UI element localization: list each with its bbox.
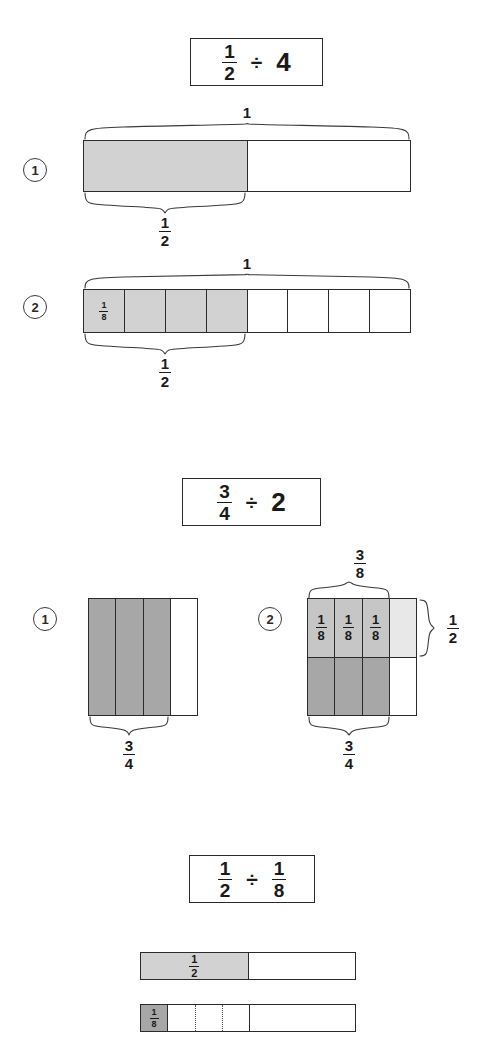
bar-cell-shaded bbox=[84, 141, 248, 191]
column-shaded bbox=[144, 599, 171, 715]
bottom-brace-half-1-1 bbox=[83, 192, 247, 214]
eighth-fraction: 1 8 bbox=[150, 1008, 159, 1029]
bottom-brace-label-2-2: 3 4 bbox=[334, 736, 364, 772]
grid-cell-faint bbox=[390, 599, 416, 658]
grid-cell-empty bbox=[390, 658, 416, 716]
problem-1-expression-box: 1 2 ÷ 4 bbox=[190, 38, 323, 86]
bar-cell-half-labeled: 1 2 bbox=[141, 953, 249, 979]
top-brace-label-1-1: 1 bbox=[232, 102, 262, 122]
bar-cell-eighth-dotted bbox=[196, 1005, 223, 1031]
half-fraction: 1 2 bbox=[159, 356, 171, 389]
grid-cell-shaded bbox=[335, 658, 361, 716]
bar-cell-empty bbox=[288, 290, 329, 332]
bottom-brace-three-quarters-2-1 bbox=[88, 716, 172, 736]
bar-cell-eighth-labeled: 1 8 bbox=[141, 1005, 168, 1031]
bottom-brace-label-1-2: 1 2 bbox=[150, 355, 180, 389]
top-brace-label-2-2: 3 8 bbox=[345, 545, 375, 581]
top-brace-whole-1-1 bbox=[83, 122, 411, 140]
bar-cell-empty bbox=[248, 141, 411, 191]
step-number-1-2: 2 bbox=[23, 295, 47, 319]
bottom-brace-half-1-2 bbox=[83, 333, 247, 355]
step-2-1-columns bbox=[88, 598, 198, 716]
bottom-brace-three-quarters-2-2 bbox=[307, 716, 395, 736]
divisor-fraction: 1 8 bbox=[272, 859, 287, 900]
dividend-fraction: 1 2 bbox=[218, 859, 233, 900]
bar-cell-eighth-dotted bbox=[223, 1005, 250, 1031]
division-operator: ÷ bbox=[246, 869, 258, 890]
column-empty bbox=[171, 599, 197, 715]
step-1-2-bar: 1 8 bbox=[83, 289, 411, 333]
step-number-1-1: 1 bbox=[23, 158, 47, 182]
eighth-fraction: 1 8 bbox=[316, 613, 327, 642]
grid-cell-shaded bbox=[308, 658, 334, 716]
divisor-value: 2 bbox=[271, 489, 285, 515]
grid-column: 1 8 bbox=[308, 599, 335, 715]
column-shaded bbox=[89, 599, 116, 715]
grid-cell-eighth-labeled: 1 8 bbox=[363, 599, 389, 658]
step-number-2-1: 1 bbox=[33, 607, 57, 631]
eighth-fraction: 1 8 bbox=[343, 613, 354, 642]
bottom-brace-label-2-1: 3 4 bbox=[114, 736, 144, 772]
divisor-value: 4 bbox=[276, 49, 290, 75]
three-quarters-fraction: 3 4 bbox=[123, 738, 135, 771]
division-operator: ÷ bbox=[251, 52, 263, 73]
eighth-fraction: 1 8 bbox=[99, 301, 108, 322]
top-brace-three-eighths-2-2 bbox=[307, 581, 395, 599]
dividend-fraction: 1 2 bbox=[222, 42, 237, 83]
bar-cell-shaded bbox=[125, 290, 166, 332]
grid-cell-shaded bbox=[363, 658, 389, 716]
dividend-fraction: 3 4 bbox=[217, 482, 232, 523]
grid-column bbox=[390, 599, 416, 715]
half-fraction: 1 2 bbox=[189, 954, 199, 979]
right-brace-label-2-2: 1 2 bbox=[438, 610, 468, 646]
half-fraction: 1 2 bbox=[159, 215, 171, 248]
grid-cell-eighth-labeled: 1 8 bbox=[335, 599, 361, 658]
grid-column: 1 8 bbox=[363, 599, 390, 715]
top-brace-whole-1-2 bbox=[83, 273, 411, 289]
bar-cell-empty bbox=[248, 290, 289, 332]
three-eighths-fraction: 3 8 bbox=[354, 547, 366, 580]
bar-cell-shaded bbox=[166, 290, 207, 332]
half-fraction: 1 2 bbox=[447, 612, 459, 645]
step-2-2-grid: 1 8 1 8 1 8 bbox=[307, 598, 417, 716]
problem-3-expression-box: 1 2 ÷ 1 8 bbox=[189, 855, 315, 903]
bar-cell-eighth-dotted bbox=[168, 1005, 195, 1031]
bar-cell-shaded bbox=[207, 290, 248, 332]
bar-cell-eighth-labeled: 1 8 bbox=[84, 290, 125, 332]
top-brace-label-1-2: 1 bbox=[232, 253, 262, 273]
bar-cell-empty bbox=[249, 953, 356, 979]
problem-3-bar-half: 1 2 bbox=[140, 952, 356, 980]
bar-cell-empty bbox=[370, 290, 410, 332]
right-brace-half-2-2 bbox=[419, 598, 435, 658]
eighth-fraction: 1 8 bbox=[370, 613, 381, 642]
grid-column: 1 8 bbox=[335, 599, 362, 715]
division-operator: ÷ bbox=[246, 492, 258, 513]
column-shaded bbox=[116, 599, 143, 715]
step-1-1-bar bbox=[83, 140, 411, 192]
grid-cell-eighth-labeled: 1 8 bbox=[308, 599, 334, 658]
bar-cell-empty bbox=[329, 290, 370, 332]
problem-2-expression-box: 3 4 ÷ 2 bbox=[182, 478, 321, 526]
bar-cell-right-half bbox=[250, 1005, 355, 1031]
problem-3-bar-eighths: 1 8 bbox=[140, 1004, 356, 1032]
step-number-2-2: 2 bbox=[258, 607, 282, 631]
three-quarters-fraction: 3 4 bbox=[343, 738, 355, 771]
bottom-brace-label-1-1: 1 2 bbox=[150, 214, 180, 248]
